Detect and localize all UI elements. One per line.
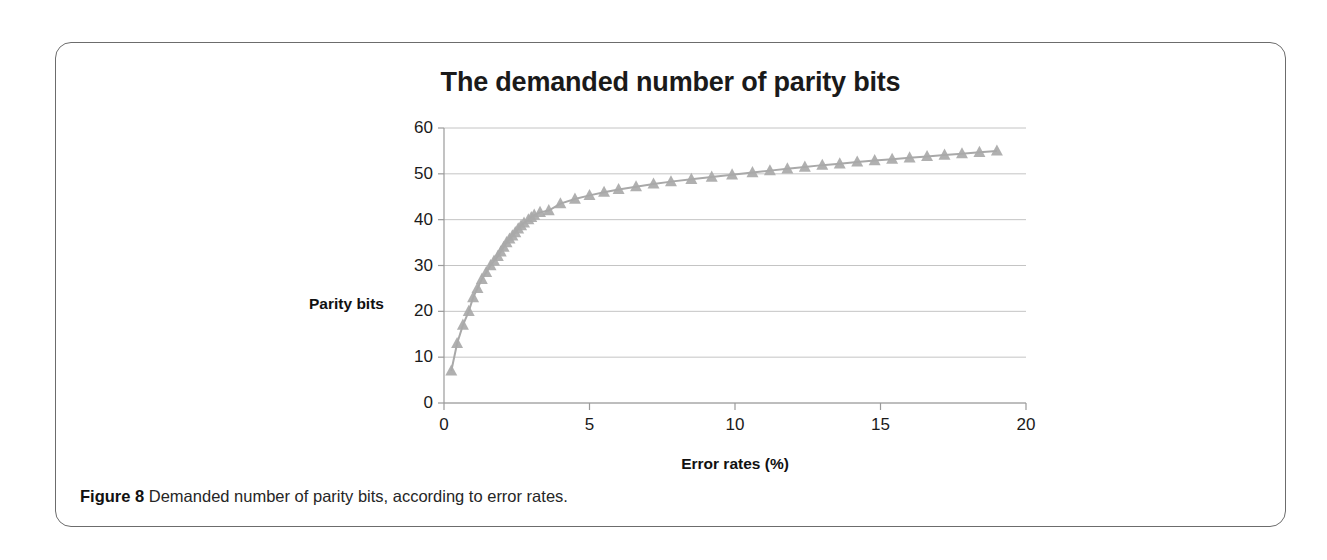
x-axis-title: Error rates (%) xyxy=(681,455,789,473)
x-tick-label-15: 15 xyxy=(871,415,890,435)
y-tick-label-0: 0 xyxy=(424,393,433,413)
y-tick-label-50: 50 xyxy=(414,164,433,184)
y-tick-label-10: 10 xyxy=(414,347,433,367)
series-line xyxy=(451,151,997,371)
y-tick-label-60: 60 xyxy=(414,118,433,138)
plot-area: 0102030405060 05101520 xyxy=(444,128,1026,403)
x-tick-label-20: 20 xyxy=(1017,415,1036,435)
data-point-marker xyxy=(451,337,463,348)
figure-caption-label: Figure 8 xyxy=(80,487,144,505)
gridlines xyxy=(444,128,1026,403)
x-tick-label-0: 0 xyxy=(439,415,448,435)
data-point-marker xyxy=(543,204,555,215)
figure-card: The demanded number of parity bits Parit… xyxy=(55,42,1286,527)
x-tick-label-10: 10 xyxy=(726,415,745,435)
figure-caption-text: Demanded number of parity bits, accordin… xyxy=(144,487,568,505)
plot-svg xyxy=(444,128,1026,403)
y-tick-label-30: 30 xyxy=(414,256,433,276)
data-point-marker xyxy=(991,144,1003,155)
figure-caption: Figure 8 Demanded number of parity bits,… xyxy=(80,487,568,506)
data-point-marker xyxy=(463,305,475,316)
x-tick-label-5: 5 xyxy=(585,415,594,435)
y-axis-title: Parity bits xyxy=(309,295,384,313)
data-point-marker xyxy=(457,319,469,330)
data-point-marker xyxy=(445,364,457,375)
y-tick-label-40: 40 xyxy=(414,210,433,230)
series-markers xyxy=(445,144,1003,375)
chart-title: The demanded number of parity bits xyxy=(56,67,1285,98)
y-tick-label-20: 20 xyxy=(414,301,433,321)
